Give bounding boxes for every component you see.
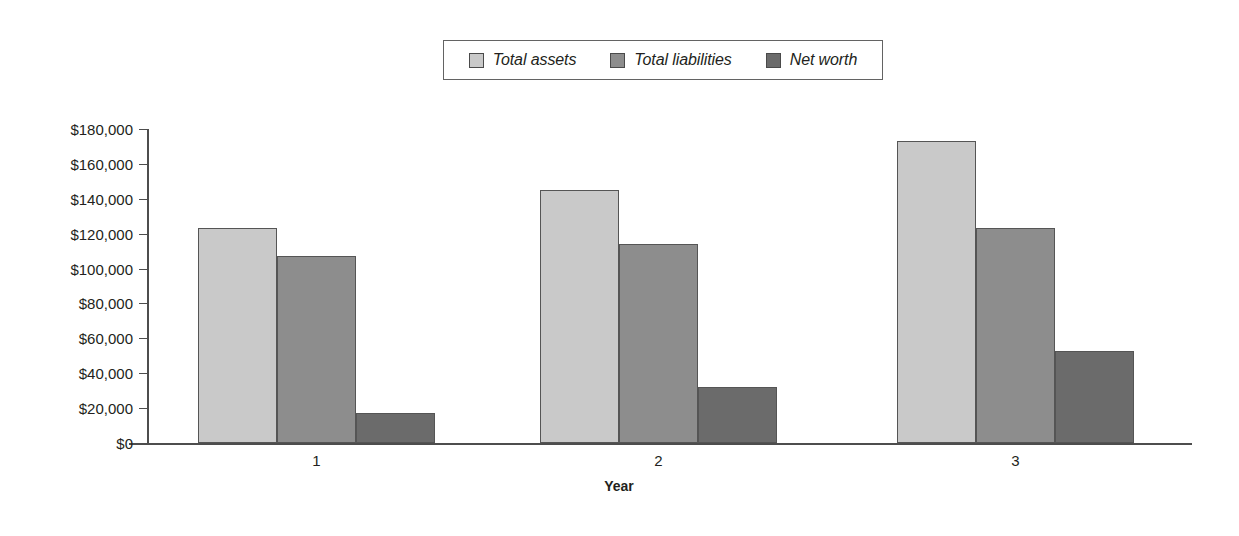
y-axis-tick-mark xyxy=(139,199,148,200)
y-axis-tick-label: $0 xyxy=(116,436,133,451)
y-axis-tick-mark xyxy=(139,443,148,444)
y-axis-tick-mark xyxy=(139,408,148,409)
x-axis-line xyxy=(129,443,1192,445)
bar xyxy=(277,256,356,443)
y-axis-tick-mark xyxy=(139,234,148,235)
y-axis-tick-mark xyxy=(139,269,148,270)
y-axis-tick-mark xyxy=(139,303,148,304)
y-axis-tick-mark xyxy=(139,129,148,130)
y-axis-tick-mark xyxy=(139,338,148,339)
y-axis-tick-label: $60,000 xyxy=(79,331,133,346)
y-axis-tick-label: $40,000 xyxy=(79,366,133,381)
y-axis-tick-label: $20,000 xyxy=(79,401,133,416)
x-axis-category-label: 3 xyxy=(1011,452,1019,469)
y-axis-tick-label: $140,000 xyxy=(70,191,133,206)
y-axis-tick-label: $180,000 xyxy=(70,122,133,137)
y-axis-tick-label: $100,000 xyxy=(70,261,133,276)
bar xyxy=(356,413,435,443)
y-axis-tick-mark xyxy=(139,373,148,374)
bar xyxy=(198,228,277,443)
bar xyxy=(897,141,976,443)
bar xyxy=(540,190,619,443)
plot-area: $0$20,000$40,000$60,000$80,000$100,000$1… xyxy=(0,0,1239,536)
y-axis-tick-label: $120,000 xyxy=(70,226,133,241)
bar-chart: Total assets Total liabilities Net worth… xyxy=(0,0,1239,536)
bar xyxy=(698,387,777,443)
bar xyxy=(619,244,698,443)
x-axis-category-label: 2 xyxy=(654,452,662,469)
bar xyxy=(1055,351,1134,443)
x-axis-category-label: 1 xyxy=(312,452,320,469)
y-axis-tick-label: $80,000 xyxy=(79,296,133,311)
y-axis-tick-label: $160,000 xyxy=(70,156,133,171)
y-axis-tick-mark xyxy=(139,164,148,165)
x-axis-title: Year xyxy=(604,478,634,494)
bar xyxy=(976,228,1055,443)
y-axis-line xyxy=(147,129,149,445)
